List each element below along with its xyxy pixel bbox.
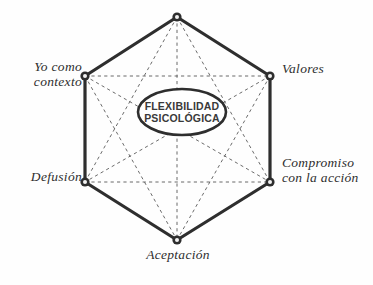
vertex-label-compromiso-line2: con la acción bbox=[282, 171, 373, 186]
vertex-label-compromiso-line1: Compromiso bbox=[282, 156, 373, 171]
hexaflex-svg: FLEXIBILIDAD PSICOLÓGICA bbox=[0, 0, 373, 285]
vertex-node-aceptacion[interactable] bbox=[172, 235, 181, 244]
vertex-label-valores-line1: Valores bbox=[282, 62, 370, 77]
vertex-label-yo-como-contexto: Yo como contexto bbox=[4, 60, 82, 89]
vertex-label-aceptacion-line1: Aceptación bbox=[128, 248, 228, 263]
vertex-label-yo-como-contexto-line1: Yo como bbox=[4, 60, 82, 75]
vertex-label-yo-como-contexto-line2: contexto bbox=[4, 75, 82, 90]
vertex-label-defusion: Defusión bbox=[2, 170, 82, 185]
vertex-label-compromiso: Compromiso con la acción bbox=[282, 156, 373, 185]
hexaflex-diagram: FLEXIBILIDAD PSICOLÓGICA bbox=[0, 0, 373, 285]
vertex-node-valores[interactable] bbox=[265, 71, 274, 80]
vertex-node-top[interactable] bbox=[172, 12, 181, 21]
vertex-label-defusion-line1: Defusión bbox=[2, 170, 82, 185]
center-label-line1: FLEXIBILIDAD bbox=[145, 100, 220, 112]
vertex-node-compromiso[interactable] bbox=[265, 177, 274, 186]
vertex-label-aceptacion: Aceptación bbox=[128, 248, 228, 263]
vertex-label-valores: Valores bbox=[282, 62, 370, 77]
center-label-line2: PSICOLÓGICA bbox=[144, 112, 220, 124]
